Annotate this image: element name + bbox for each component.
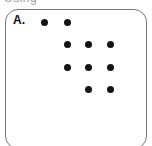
dot xyxy=(64,64,71,71)
dot xyxy=(85,64,92,71)
panel-label: A. xyxy=(13,13,25,27)
dot xyxy=(85,86,92,93)
dot xyxy=(85,41,92,48)
dot xyxy=(64,41,71,48)
cut-off-heading-text: Using xyxy=(4,0,37,5)
dot xyxy=(107,41,114,48)
dot xyxy=(107,64,114,71)
dot xyxy=(107,86,114,93)
dot xyxy=(64,19,71,26)
option-panel-a xyxy=(5,9,147,146)
dot xyxy=(41,19,48,26)
